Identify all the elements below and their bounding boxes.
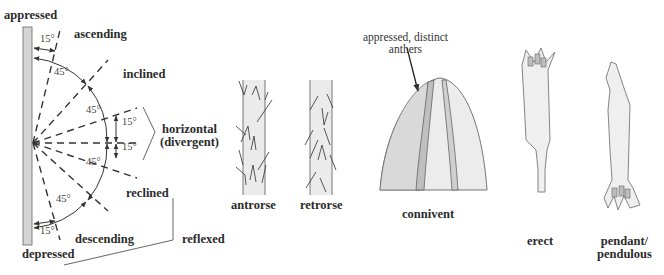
orientation-diagram: appressed ascending inclined horizontal …	[0, 0, 664, 275]
label-horizontal-line2: (divergent)	[160, 136, 219, 149]
label-antrorse: antrorse	[231, 199, 276, 212]
label-horizontal: horizontal (divergent)	[160, 123, 219, 149]
label-depressed: depressed	[22, 248, 75, 261]
angle-horiz-15-down: 15°	[122, 141, 137, 152]
label-erect: erect	[527, 235, 553, 248]
angle-upper-45a: 45°	[54, 66, 69, 77]
label-pendant: pendant/ pendulous	[597, 235, 652, 261]
annotation-line2: anthers	[363, 43, 448, 55]
label-inclined: inclined	[123, 68, 165, 81]
angle-upper-45b: 45°	[86, 104, 101, 115]
annotation-line1: appressed, distinct	[363, 31, 448, 43]
retrorse-stem	[305, 80, 336, 195]
label-retrorse: retrorse	[300, 199, 343, 212]
label-connivent: connivent	[402, 208, 454, 221]
connivent-anthers	[380, 48, 487, 190]
annotation-anthers: appressed, distinct anthers	[363, 31, 448, 55]
angle-bottom-15: 15°	[40, 225, 55, 236]
erect-flower	[522, 48, 555, 192]
label-reflexed: reflexed	[182, 233, 225, 246]
label-pendant-line2: pendulous	[597, 248, 652, 261]
label-appressed: appressed	[4, 9, 57, 22]
antrorse-stem	[236, 80, 272, 195]
angle-top-15: 15°	[40, 33, 55, 44]
label-ascending: ascending	[74, 28, 127, 41]
angle-lower-45b: 45°	[56, 193, 71, 204]
angle-lower-45a: 45°	[86, 156, 101, 167]
label-descending: descending	[75, 233, 134, 246]
label-reclined: reclined	[126, 187, 169, 200]
pendant-flower	[604, 62, 640, 210]
axis-bar	[23, 27, 32, 245]
angle-horiz-15-up: 15°	[122, 116, 137, 127]
